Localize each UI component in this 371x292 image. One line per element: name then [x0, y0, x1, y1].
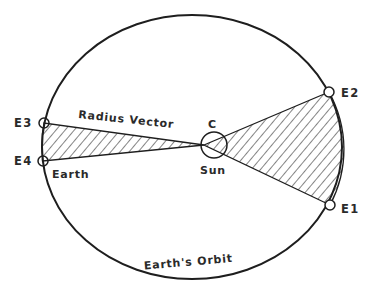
label-radius-vector: Radius Vector: [78, 108, 175, 131]
kepler-orbit-diagram: E1 E2 E3 E4 Earth Sun C Radius Vector Ea…: [0, 0, 371, 292]
label-e3: E3: [14, 116, 33, 130]
swept-area-left: [42, 123, 204, 161]
label-sun: Sun: [200, 164, 226, 177]
label-e1: E1: [341, 202, 360, 216]
label-earth: Earth: [52, 168, 89, 181]
earth-position-e2-marker: [324, 87, 334, 97]
swept-area-right: [204, 92, 344, 205]
earth-position-e1-marker: [325, 200, 335, 210]
label-earths-orbit: Earth's Orbit: [143, 252, 233, 273]
label-e4: E4: [14, 154, 33, 168]
label-e2: E2: [341, 86, 360, 100]
label-center-c: C: [208, 118, 217, 131]
